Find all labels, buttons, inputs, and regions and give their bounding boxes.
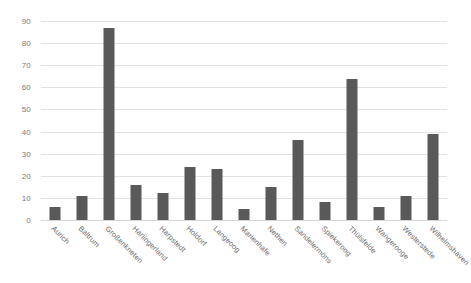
x-axis-label-slot: Nethen [258, 221, 285, 283]
bar-slot [312, 21, 339, 220]
y-axis-tick-label: 90 [22, 17, 31, 26]
x-axis-label-slot: Sandelermöns [285, 221, 312, 283]
y-axis-tick-label: 40 [22, 127, 31, 136]
bar-slot [393, 21, 420, 220]
bar[interactable] [266, 187, 277, 220]
x-axis-label-slot: Baltrum [68, 221, 95, 283]
y-axis-tick-label: 50 [22, 105, 31, 114]
y-axis-tick-label: 10 [22, 193, 31, 202]
bar-slot [366, 21, 393, 220]
bar-series [41, 21, 447, 220]
x-axis-label-slot: Aurich [41, 221, 68, 283]
x-axis-label-slot: Harpstedt [149, 221, 176, 283]
x-axis-label-slot: Westerstede [393, 221, 420, 283]
bar-slot [122, 21, 149, 220]
bar[interactable] [184, 167, 195, 220]
x-axis-tick-label: Wilhelmshaven [428, 224, 471, 267]
bar-slot [149, 21, 176, 220]
x-axis-label-slot: Langeoog [203, 221, 230, 283]
x-axis-label-slot: Wangerooge [366, 221, 393, 283]
bar[interactable] [103, 28, 114, 220]
y-axis-tick-label: 30 [22, 149, 31, 158]
bar[interactable] [76, 196, 87, 220]
y-axis-tick-label: 80 [22, 39, 31, 48]
x-axis-labels: AurichBaltrumGroßenknetenHarlingerlandHa… [41, 221, 447, 283]
y-axis: 0102030405060708090 [0, 21, 36, 220]
bar-slot [339, 21, 366, 220]
bar[interactable] [49, 207, 60, 220]
x-axis-label-slot: Marienhafe [230, 221, 257, 283]
bar[interactable] [428, 134, 439, 220]
bar-slot [420, 21, 447, 220]
bar-slot [41, 21, 68, 220]
x-axis-label-slot: Thülsfelde [339, 221, 366, 283]
bar-slot [176, 21, 203, 220]
y-axis-tick-label: 20 [22, 171, 31, 180]
plot-area [41, 21, 447, 220]
bar-slot [95, 21, 122, 220]
x-axis-label-slot: Holdorf [176, 221, 203, 283]
bar-slot [203, 21, 230, 220]
bar[interactable] [347, 79, 358, 221]
y-axis-tick-label: 70 [22, 61, 31, 70]
bar[interactable] [157, 193, 168, 220]
x-axis-label-slot: Spiekeroog [312, 221, 339, 283]
bar[interactable] [320, 202, 331, 220]
bar[interactable] [211, 169, 222, 220]
bar[interactable] [374, 207, 385, 220]
y-axis-tick-label: 0 [26, 216, 31, 225]
bar-slot [68, 21, 95, 220]
bar[interactable] [238, 209, 249, 220]
bar[interactable] [401, 196, 412, 220]
y-axis-tick-label: 60 [22, 83, 31, 92]
bar[interactable] [293, 140, 304, 220]
bar-slot [285, 21, 312, 220]
bar-slot [230, 21, 257, 220]
x-axis-label-slot: Großenkneten [95, 221, 122, 283]
x-axis-label-slot: Harlingerland [122, 221, 149, 283]
x-axis-label-slot: Wilhelmshaven [420, 221, 447, 283]
bar[interactable] [130, 185, 141, 220]
bar-slot [258, 21, 285, 220]
